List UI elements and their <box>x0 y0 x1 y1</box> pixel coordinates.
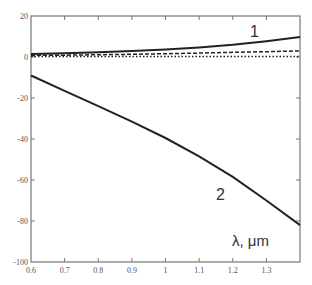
y-tick-label: -60 <box>17 176 28 185</box>
y-tick-label: 20 <box>20 12 28 21</box>
curve-1-label: 1 <box>250 23 259 40</box>
series-line-4 <box>31 76 300 226</box>
y-tick-label: -100 <box>13 258 28 267</box>
x-axis-label: λ, μm <box>232 232 269 249</box>
x-tick-label: 1.1 <box>194 266 204 275</box>
x-tick-label: 0.7 <box>60 266 70 275</box>
x-tick-label: 0.8 <box>93 266 103 275</box>
y-tick-label: 0 <box>24 53 28 62</box>
x-tick-label: 1.3 <box>261 266 271 275</box>
y-tick-label: -20 <box>17 94 28 103</box>
series-lines <box>31 37 300 225</box>
x-tick-label: 1.2 <box>228 266 238 275</box>
line-chart: 0.60.70.80.911.11.21.3200-20-40-60-80-10… <box>0 0 312 285</box>
x-tick-label: 1 <box>164 266 168 275</box>
x-tick-label: 0.6 <box>26 266 36 275</box>
x-tick-label: 0.9 <box>127 266 137 275</box>
y-tick-label: -40 <box>17 135 28 144</box>
y-tick-label: -80 <box>17 217 28 226</box>
curve-2-label: 2 <box>216 186 225 203</box>
